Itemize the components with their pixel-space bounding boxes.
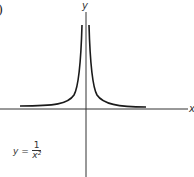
equation-fraction: 1 x² — [32, 141, 42, 160]
y-axis-label: y — [82, 0, 88, 11]
x-axis-label: x — [189, 103, 194, 114]
curve-right-branch — [89, 25, 146, 107]
equation-denominator: x² — [32, 151, 41, 160]
curve-left-branch — [20, 25, 82, 106]
figure-label-fragment: ) — [0, 2, 3, 17]
equation-annotation: y = 1 x² — [13, 141, 41, 160]
equation-lhs: y = — [13, 146, 29, 156]
